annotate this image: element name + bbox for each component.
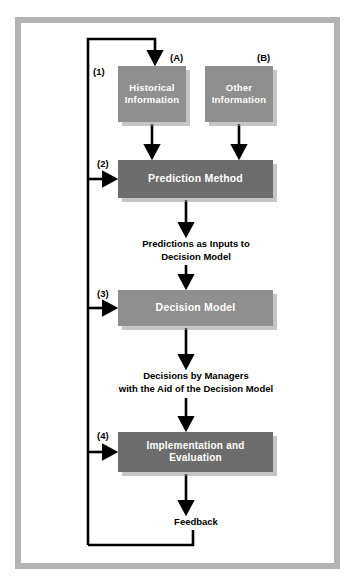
feedback-return-path (88, 530, 193, 545)
box-historical-information-line1: Historical (129, 82, 174, 93)
box-other-information-text: Other Information (212, 82, 266, 106)
label-decisions-line1: Decisions by Managers (143, 370, 249, 381)
label-feedback: Feedback (146, 516, 246, 529)
box-historical-information-text: Historical Information (125, 82, 179, 106)
label-predictions-line1: Predictions as Inputs to (142, 238, 250, 249)
box-other-information-line2: Information (212, 94, 266, 105)
callout-tag-3: (3) (97, 288, 109, 299)
callout-tag-1: (1) (93, 66, 105, 77)
label-feedback-text: Feedback (174, 516, 218, 527)
callout-tag-b: (B) (257, 52, 270, 63)
box-prediction-method[interactable]: Prediction Method (118, 160, 273, 198)
box-historical-information[interactable]: Historical Information (118, 66, 186, 122)
label-predictions-as-inputs: Predictions as Inputs to Decision Model (96, 238, 296, 264)
box-implementation-line2: Evaluation (169, 452, 222, 463)
diagram-canvas: Historical Information Other Information… (0, 0, 356, 585)
box-other-information[interactable]: Other Information (205, 66, 273, 122)
label-decisions-line2: with the Aid of the Decision Model (119, 383, 273, 394)
callout-tag-a: (A) (170, 52, 183, 63)
label-decisions-by-managers: Decisions by Managers with the Aid of th… (76, 370, 316, 396)
diagram-page: Historical Information Other Information… (0, 0, 356, 585)
box-decision-model-label: Decision Model (156, 301, 236, 314)
callout-tag-4: (4) (97, 430, 109, 441)
box-historical-information-line2: Information (125, 94, 179, 105)
label-predictions-line2: Decision Model (161, 251, 231, 262)
box-decision-model[interactable]: Decision Model (118, 290, 273, 326)
callout-tag-2: (2) (97, 158, 109, 169)
box-implementation-and-evaluation[interactable]: Implementation and Evaluation (118, 432, 273, 472)
box-other-information-line1: Other (226, 82, 252, 93)
box-prediction-method-label: Prediction Method (148, 172, 243, 185)
box-implementation-line1: Implementation and (146, 440, 244, 451)
box-implementation-and-evaluation-text: Implementation and Evaluation (146, 440, 244, 465)
